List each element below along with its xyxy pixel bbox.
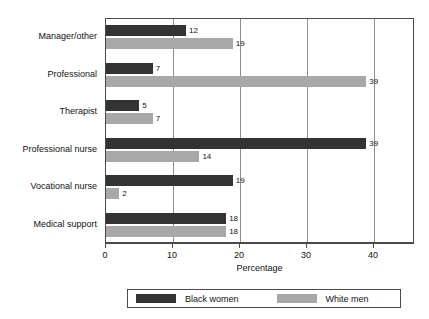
category-axis-labels: Manager/other Professional Therapist Pro… (0, 18, 100, 243)
x-tick-label-10: 10 (167, 250, 177, 261)
bar-value-black-women-vocational-nurse: 19 (236, 175, 245, 186)
legend-swatch-white-men (277, 294, 317, 303)
x-tick-label-20: 20 (234, 250, 244, 261)
category-label-medical-support: Medical support (33, 206, 97, 244)
legend-entry-white-men: White men (277, 290, 369, 307)
bar-value-white-men-professional-nurse: 14 (202, 151, 211, 162)
bar-value-white-men-therapist: 7 (156, 113, 160, 124)
legend-swatch-black-women (136, 294, 176, 303)
bar-value-white-men-manager-other: 19 (236, 38, 245, 49)
bar-black-women-medical-support (106, 213, 226, 224)
legend-label-black-women: Black women (185, 294, 239, 304)
chart-legend: Black women White men (127, 289, 401, 308)
bar-group-therapist: 5 7 (106, 94, 413, 132)
bar-value-black-women-professional: 7 (156, 63, 160, 74)
legend-label-white-men: White men (326, 294, 369, 304)
bar-group-professional-nurse: 39 14 (106, 132, 413, 170)
bar-value-white-men-medical-support: 18 (229, 226, 238, 237)
x-axis-title: Percentage (105, 263, 414, 273)
bar-black-women-professional-nurse (106, 138, 366, 149)
bar-group-professional: 7 39 (106, 57, 413, 95)
x-tick-30 (306, 243, 307, 248)
bar-white-men-medical-support (106, 226, 226, 237)
plot-area: 12 19 7 39 5 7 39 14 (105, 18, 414, 243)
bar-white-men-vocational-nurse (106, 188, 119, 199)
bar-value-white-men-professional: 39 (369, 76, 378, 87)
bar-rows: 12 19 7 39 5 7 39 14 (106, 19, 413, 242)
bar-value-black-women-therapist: 5 (142, 100, 146, 111)
category-label-professional: Professional (47, 56, 97, 94)
x-tick-label-0: 0 (102, 250, 107, 261)
bar-group-vocational-nurse: 19 2 (106, 169, 413, 207)
category-label-professional-nurse: Professional nurse (22, 131, 97, 169)
x-tick-40 (373, 243, 374, 248)
bar-group-medical-support: 18 18 (106, 207, 413, 245)
category-label-manager-other: Manager/other (38, 18, 97, 56)
bar-white-men-therapist (106, 113, 153, 124)
x-tick-10 (172, 243, 173, 248)
bar-black-women-therapist (106, 100, 139, 111)
bar-black-women-professional (106, 63, 153, 74)
bar-chart: Manager/other Professional Therapist Pro… (0, 0, 429, 319)
x-tick-0 (105, 243, 106, 248)
bar-black-women-vocational-nurse (106, 175, 233, 186)
bar-white-men-professional (106, 76, 366, 87)
bar-white-men-professional-nurse (106, 151, 199, 162)
legend-entry-black-women: Black women (136, 290, 239, 307)
x-tick-label-40: 40 (368, 250, 378, 261)
bar-white-men-manager-other (106, 38, 233, 49)
bar-value-black-women-manager-other: 12 (189, 25, 198, 36)
x-axis-line (105, 243, 414, 244)
category-label-therapist: Therapist (59, 93, 97, 131)
x-tick-label-30: 30 (301, 250, 311, 261)
category-label-vocational-nurse: Vocational nurse (30, 168, 97, 206)
bar-group-manager-other: 12 19 (106, 19, 413, 57)
bar-value-black-women-professional-nurse: 39 (369, 138, 378, 149)
x-tick-20 (239, 243, 240, 248)
bar-value-white-men-vocational-nurse: 2 (122, 188, 126, 199)
bar-black-women-manager-other (106, 25, 186, 36)
bar-value-black-women-medical-support: 18 (229, 213, 238, 224)
